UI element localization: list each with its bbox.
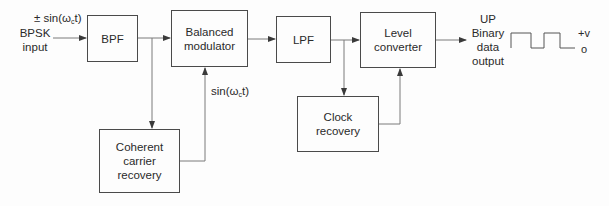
- carrier-signal-tail: t): [242, 85, 249, 97]
- input-name-label: BPSK input: [18, 26, 52, 54]
- carrier-recovery-label-line2: carrier: [116, 154, 163, 168]
- clock-recovery-label-line2: recovery: [316, 124, 360, 138]
- level-converter-label-line1: Level: [374, 26, 422, 40]
- bpf-label: BPF: [101, 32, 123, 46]
- bpf-block: BPF: [87, 15, 138, 62]
- clock-recovery-block: Clock recovery: [297, 96, 379, 152]
- balanced-modulator-label-line1: Balanced: [184, 25, 235, 39]
- carrier-recovery-label-line3: recovery: [116, 168, 163, 182]
- input-signal-text: ± sin(ω: [34, 12, 71, 24]
- lpf-label: LPF: [293, 33, 314, 47]
- balanced-modulator-label-line2: modulator: [184, 39, 235, 53]
- clock-to-level-converter-arrow: [379, 69, 400, 124]
- output-label-line2: Binary: [466, 26, 510, 40]
- waveform-high-label: +v: [578, 26, 590, 40]
- carrier-signal-label: sin(ωct): [211, 84, 249, 102]
- coherent-carrier-recovery-block: Coherent carrier recovery: [99, 129, 180, 193]
- output-label: UP Binary data output: [466, 12, 510, 68]
- carrier-to-modulator-arrow: [180, 68, 205, 161]
- balanced-modulator-block: Balanced modulator: [171, 10, 248, 67]
- lpf-block: LPF: [276, 16, 331, 63]
- level-converter-label-line2: converter: [374, 40, 422, 54]
- input-name-line1: BPSK: [18, 26, 52, 40]
- clock-recovery-label-line1: Clock: [316, 110, 360, 124]
- output-label-line1: UP: [466, 12, 510, 26]
- carrier-recovery-label-line1: Coherent: [116, 140, 163, 154]
- level-converter-block: Level converter: [360, 12, 436, 68]
- input-name-line2: input: [18, 40, 52, 54]
- waveform-low-label: o: [581, 42, 587, 56]
- output-label-line4: output: [466, 54, 510, 68]
- input-signal-tail: t): [75, 12, 82, 24]
- square-wave-waveform: [511, 33, 575, 48]
- output-label-line3: data: [466, 40, 510, 54]
- bpsk-receiver-diagram: ± sin(ωct) BPSK input BPF Balanced modul…: [0, 0, 609, 206]
- carrier-signal-text: sin(ω: [211, 85, 239, 97]
